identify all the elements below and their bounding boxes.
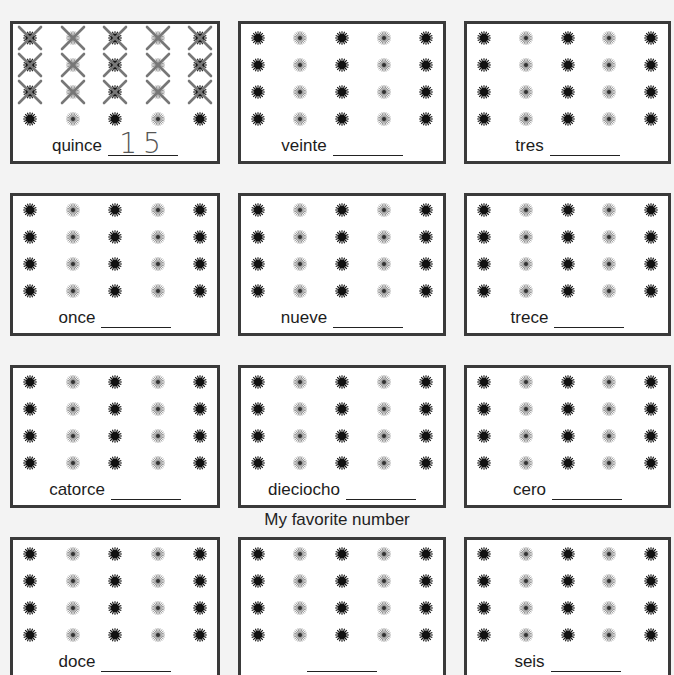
dark-star-dot-icon: [335, 85, 349, 99]
dark-star-dot-icon: [477, 58, 491, 72]
dark-star-dot-icon: [108, 574, 122, 588]
dark-star-dot-icon: [419, 456, 433, 470]
dark-star-dot-icon: [644, 456, 658, 470]
dark-star-dot-icon: [419, 284, 433, 298]
answer-blank-field[interactable]: [307, 649, 377, 672]
light-star-dot-icon: [377, 429, 391, 443]
dark-star-dot-icon: [23, 112, 37, 126]
light-star-dot-icon: [602, 601, 616, 615]
dark-star-dot-icon: [477, 601, 491, 615]
light-star-dot-icon: [66, 628, 80, 642]
dark-star-dot-icon: [477, 230, 491, 244]
dark-star-dot-icon: [193, 230, 207, 244]
light-star-dot-icon: [293, 112, 307, 126]
answer-blank-field[interactable]: [552, 477, 622, 500]
answer-blank-field[interactable]: [101, 305, 171, 328]
light-star-dot-icon: [519, 284, 533, 298]
dark-star-dot-icon: [335, 375, 349, 389]
light-star-dot-icon: [519, 628, 533, 642]
dark-star-dot-icon: [23, 230, 37, 244]
dark-star-dot-icon: [23, 375, 37, 389]
dark-star-dot-icon: [251, 85, 265, 99]
counting-card: veinte: [238, 21, 446, 164]
light-star-dot-icon: [293, 203, 307, 217]
dark-star-dot-icon: [477, 402, 491, 416]
light-star-dot-icon: [66, 601, 80, 615]
dark-star-dot-icon: [644, 375, 658, 389]
number-word-label: trece: [467, 302, 668, 328]
handwritten-answer: 15: [108, 130, 178, 158]
light-star-dot-icon: [377, 456, 391, 470]
answer-blank-field[interactable]: 15: [108, 133, 178, 156]
dark-star-dot-icon: [23, 574, 37, 588]
dark-star-dot-icon: [477, 284, 491, 298]
light-star-dot-icon: [377, 230, 391, 244]
dark-star-dot-icon: [561, 574, 575, 588]
counting-card: cero: [464, 365, 671, 508]
dark-star-dot-icon: [193, 547, 207, 561]
dark-star-dot-icon: [251, 574, 265, 588]
dark-star-dot-icon: [335, 574, 349, 588]
dark-star-dot-icon: [419, 31, 433, 45]
dark-star-dot-icon: [335, 230, 349, 244]
dark-star-dot-icon: [251, 203, 265, 217]
dark-star-dot-icon: [419, 85, 433, 99]
cross-out-mark-icon: [187, 25, 213, 51]
light-star-dot-icon: [151, 203, 165, 217]
light-star-dot-icon: [519, 112, 533, 126]
number-word-label: cero: [467, 474, 668, 500]
light-star-dot-icon: [293, 31, 307, 45]
light-star-dot-icon: [151, 456, 165, 470]
answer-blank-field[interactable]: [101, 649, 171, 672]
light-star-dot-icon: [519, 230, 533, 244]
light-star-dot-icon: [66, 112, 80, 126]
counting-card: catorce: [10, 365, 220, 508]
dark-star-dot-icon: [251, 284, 265, 298]
answer-blank-field[interactable]: [111, 477, 181, 500]
light-star-dot-icon: [602, 257, 616, 271]
light-star-dot-icon: [66, 402, 80, 416]
dark-star-dot-icon: [644, 628, 658, 642]
light-star-dot-icon: [66, 230, 80, 244]
answer-blank-field[interactable]: [346, 477, 416, 500]
dark-star-dot-icon: [335, 284, 349, 298]
light-star-dot-icon: [519, 456, 533, 470]
light-star-dot-icon: [519, 429, 533, 443]
spanish-number-word: tres: [515, 136, 543, 156]
dark-star-dot-icon: [561, 547, 575, 561]
dark-star-dot-icon: [644, 402, 658, 416]
light-star-dot-icon: [602, 58, 616, 72]
dark-star-dot-icon: [193, 284, 207, 298]
dark-star-dot-icon: [561, 203, 575, 217]
counting-card: dieciocho: [238, 365, 446, 508]
answer-blank-field[interactable]: [333, 133, 403, 156]
light-star-dot-icon: [602, 230, 616, 244]
dark-star-dot-icon: [477, 257, 491, 271]
spanish-number-word: seis: [514, 652, 544, 672]
answer-blank-field[interactable]: [554, 305, 624, 328]
dark-star-dot-icon: [335, 429, 349, 443]
dark-star-dot-icon: [561, 456, 575, 470]
light-star-dot-icon: [519, 85, 533, 99]
light-star-dot-icon: [602, 402, 616, 416]
light-star-dot-icon: [377, 375, 391, 389]
light-star-dot-icon: [66, 456, 80, 470]
dark-star-dot-icon: [193, 601, 207, 615]
dark-star-dot-icon: [108, 456, 122, 470]
dark-star-dot-icon: [477, 31, 491, 45]
dark-star-dot-icon: [23, 429, 37, 443]
cross-out-mark-icon: [17, 25, 43, 51]
light-star-dot-icon: [66, 257, 80, 271]
dark-star-dot-icon: [193, 257, 207, 271]
answer-blank-field[interactable]: [333, 305, 403, 328]
light-star-dot-icon: [519, 574, 533, 588]
light-star-dot-icon: [66, 203, 80, 217]
dark-star-dot-icon: [419, 402, 433, 416]
dark-star-dot-icon: [644, 230, 658, 244]
light-star-dot-icon: [602, 375, 616, 389]
answer-blank-field[interactable]: [551, 649, 621, 672]
answer-blank-field[interactable]: [550, 133, 620, 156]
dark-star-dot-icon: [193, 429, 207, 443]
spanish-number-word: catorce: [49, 480, 105, 500]
number-word-label: dieciocho: [241, 474, 443, 500]
